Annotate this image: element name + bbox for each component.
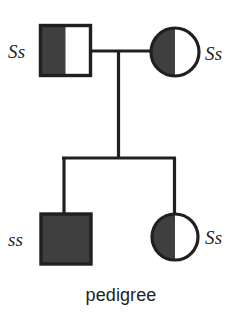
individual-daughter — [152, 214, 198, 260]
pedigree-figure: Ss Ss ss Ss pedigree — [0, 0, 242, 317]
genotype-label-daughter: Ss — [205, 228, 222, 247]
individual-father — [41, 26, 91, 76]
genotype-label-mother: Ss — [205, 44, 222, 63]
son-affected-full-fill — [41, 214, 91, 264]
figure-caption: pedigree — [0, 286, 242, 304]
genotype-label-father: Ss — [8, 42, 25, 61]
individual-mother — [151, 28, 199, 76]
individual-son — [41, 214, 91, 264]
genotype-label-son: ss — [8, 230, 23, 249]
